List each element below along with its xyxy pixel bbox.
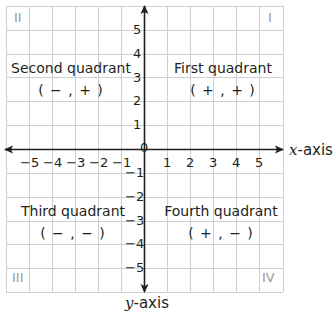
y-axis-label: y-axis <box>125 294 169 312</box>
x-tick: −5 <box>20 156 39 170</box>
x-tick: 1 <box>163 156 171 170</box>
y-tick: 2 <box>133 94 141 108</box>
y-tick: 5 <box>133 23 141 37</box>
quadrant-i-name: First quadrant <box>160 60 286 76</box>
quadrant-ii-signs: ( − , + ) <box>8 82 134 98</box>
x-tick: −4 <box>43 156 62 170</box>
x-axis-label: x-axis <box>289 141 333 159</box>
y-tick: 4 <box>133 47 141 61</box>
quadrant-ii-name: Second quadrant <box>8 60 134 76</box>
quadrant-iii-name: Third quadrant <box>10 203 136 219</box>
x-tick: −2 <box>89 156 108 170</box>
x-tick: 2 <box>186 156 194 170</box>
y-tick: 3 <box>133 71 141 85</box>
quadrant-iv-name: Fourth quadrant <box>158 203 284 219</box>
y-tick: −5 <box>125 261 144 275</box>
quadrant-numeral-ii: II <box>14 10 22 25</box>
x-axis-suffix: -axis <box>297 141 332 159</box>
quadrant-i-signs: ( + , + ) <box>160 82 286 98</box>
quadrant-i: First quadrant ( + , + ) <box>160 60 286 98</box>
quadrant-iv-signs: ( + , − ) <box>158 225 284 241</box>
y-axis-suffix: -axis <box>133 294 168 312</box>
quadrant-numeral-iv: IV <box>262 270 275 285</box>
x-tick: 4 <box>232 156 240 170</box>
y-tick: −2 <box>125 190 144 204</box>
y-tick: 1 <box>133 118 141 132</box>
y-tick: −1 <box>125 166 144 180</box>
origin-label: 0 <box>140 141 148 155</box>
x-tick: 3 <box>209 156 217 170</box>
quadrant-ii: Second quadrant ( − , + ) <box>8 60 134 98</box>
quadrant-iii-signs: ( − , − ) <box>10 225 136 241</box>
y-tick: −4 <box>125 237 144 251</box>
x-tick: −3 <box>66 156 85 170</box>
y-tick: −3 <box>125 214 144 228</box>
quadrant-numeral-i: I <box>268 10 272 25</box>
x-tick: 5 <box>255 156 263 170</box>
quadrant-numeral-iii: III <box>12 270 24 285</box>
quadrant-iv: Fourth quadrant ( + , − ) <box>158 203 284 241</box>
quadrant-iii: Third quadrant ( − , − ) <box>10 203 136 241</box>
